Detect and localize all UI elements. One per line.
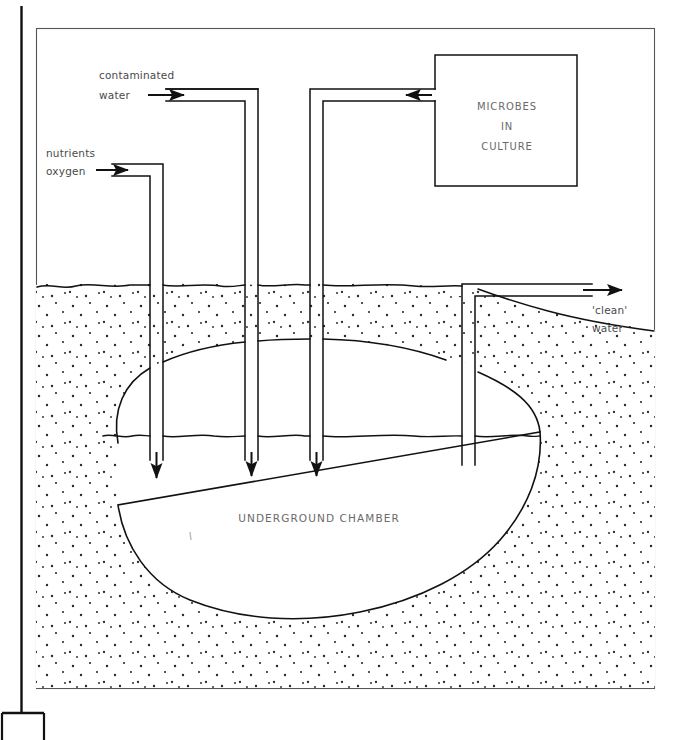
clean-water-label-line2: water (592, 321, 623, 336)
diagram-svg (0, 0, 680, 740)
microbes-label-line3: CULTURE (466, 140, 548, 155)
diagram-canvas: contaminated water nutrients oxygen 'cle… (0, 0, 680, 740)
clean-water-label-line1: 'clean' (592, 303, 627, 318)
underground-chamber-label: UNDERGROUND CHAMBER (234, 511, 404, 526)
microbes-label-line1: MICROBES (466, 100, 548, 115)
microbes-label-line2: IN (466, 120, 548, 135)
stray-mark (190, 532, 191, 540)
contaminated-water-label-line1: contaminated (99, 68, 174, 83)
contaminated-water-label-line2: water (99, 88, 130, 103)
nutrients-label: nutrients (46, 146, 95, 161)
oxygen-label: oxygen (46, 164, 86, 179)
